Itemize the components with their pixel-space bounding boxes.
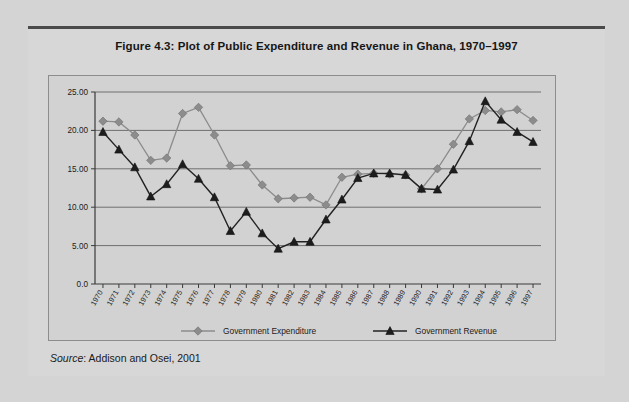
y-axis-label-5: 5.00	[72, 242, 88, 251]
x-axis-label-1973: 1973	[136, 289, 152, 308]
legend-label-1: Government Revenue	[415, 326, 497, 336]
y-axis-label-20: 20.00	[68, 126, 89, 135]
x-axis-label-1972: 1972	[121, 289, 137, 308]
source-label: Source	[50, 352, 83, 364]
x-axis-label-1978: 1978	[216, 289, 232, 308]
x-axis-label-1997: 1997	[519, 289, 535, 308]
x-axis-label-1992: 1992	[439, 289, 455, 308]
x-axis-label-1970: 1970	[89, 289, 105, 308]
x-axis-label-1993: 1993	[455, 289, 471, 308]
data-point-1973	[147, 192, 155, 200]
x-axis-label-1975: 1975	[168, 289, 184, 308]
x-axis-label-1991: 1991	[423, 289, 439, 308]
data-point-1993	[465, 115, 473, 123]
x-axis-label-1984: 1984	[312, 289, 328, 308]
x-axis-label-1994: 1994	[471, 289, 487, 308]
data-point-1993	[465, 137, 473, 145]
source-note: Source: Addison and Osei, 2001	[50, 352, 201, 364]
x-axis-label-1976: 1976	[184, 289, 200, 308]
data-point-1994	[481, 97, 489, 105]
data-point-1982	[290, 194, 298, 202]
series-government-expenditure	[99, 103, 537, 209]
x-axis-label-1995: 1995	[487, 289, 503, 308]
x-axis-label-1981: 1981	[264, 289, 280, 308]
x-axis-label-1988: 1988	[375, 289, 391, 308]
data-point-1973	[147, 156, 155, 164]
x-axis-label-1985: 1985	[328, 289, 344, 308]
y-axis-label-15: 15.00	[68, 165, 89, 174]
source-text: : Addison and Osei, 2001	[83, 352, 200, 364]
x-axis-label-1982: 1982	[280, 289, 296, 308]
data-point-1996	[513, 128, 521, 136]
x-axis-label-1987: 1987	[359, 289, 375, 308]
y-axis-label-25: 25.00	[68, 88, 89, 97]
x-axis-label-1986: 1986	[344, 289, 360, 308]
x-axis-label-1974: 1974	[152, 289, 168, 308]
figure-card: Figure 4.3: Plot of Public Expenditure a…	[28, 26, 605, 376]
x-axis-label-1971: 1971	[105, 289, 121, 308]
x-axis-label-1979: 1979	[232, 289, 248, 308]
data-point-1975	[178, 160, 186, 168]
x-axis-label-1980: 1980	[248, 289, 264, 308]
data-point-1992	[449, 140, 457, 148]
legend-label-0: Government Expenditure	[223, 326, 316, 336]
data-point-1983	[306, 193, 314, 201]
x-axis-label-1996: 1996	[503, 289, 519, 308]
x-axis-label-1990: 1990	[407, 289, 423, 308]
figure-title: Figure 4.3: Plot of Public Expenditure a…	[28, 40, 605, 52]
x-axis-label-1977: 1977	[200, 289, 216, 308]
data-point-1976	[194, 103, 202, 111]
x-axis-label-1989: 1989	[391, 289, 407, 308]
data-point-1974	[162, 154, 170, 162]
y-axis-label-0: 0.0	[77, 280, 89, 289]
data-point-1977	[210, 131, 218, 139]
data-point-1985	[338, 173, 346, 181]
data-point-1997	[529, 116, 537, 124]
data-point-1975	[178, 109, 186, 117]
data-point-1970	[99, 117, 107, 125]
data-point-1984	[322, 201, 330, 209]
legend-marker-0	[194, 327, 202, 335]
x-axis-label-1983: 1983	[296, 289, 312, 308]
line-chart: 0.05.0010.0015.0020.0025.001970197119721…	[49, 76, 555, 340]
screenshot-root: Figure 4.3: Plot of Public Expenditure a…	[0, 0, 629, 402]
data-point-1979	[242, 207, 250, 215]
y-axis-label-10: 10.00	[68, 203, 89, 212]
data-point-1996	[513, 105, 521, 113]
series-line-1	[103, 101, 533, 248]
data-point-1997	[529, 138, 537, 146]
plot-area: 0.05.0010.0015.0020.0025.001970197119721…	[48, 75, 556, 341]
card-top-rule	[28, 26, 605, 29]
data-point-1970	[99, 128, 107, 136]
